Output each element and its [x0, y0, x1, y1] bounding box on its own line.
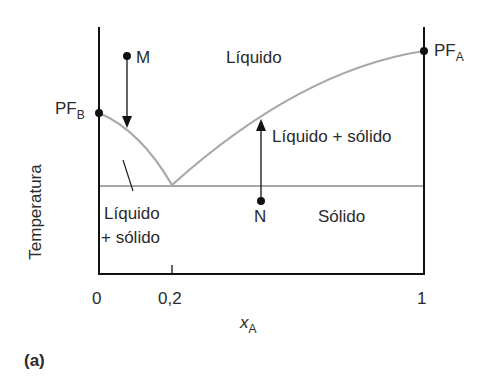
liquidus-right [172, 51, 424, 185]
xtick-0: 0 [92, 289, 101, 308]
figure-label: (a) [24, 351, 45, 370]
region-liquid: Líquido [226, 48, 282, 67]
region-liquid-solid-left-2: + sólido [101, 228, 160, 247]
label-pf-a: PFA [434, 41, 464, 64]
label-n: N [254, 207, 266, 226]
label-pf-b: PFB [55, 99, 85, 122]
xtick-0-2: 0,2 [158, 289, 182, 308]
phase-diagram: M PFB PFA N Líquido Líquido + sólido Líq… [0, 0, 491, 377]
arrow-n-head [256, 119, 266, 131]
region-solid: Sólido [318, 207, 365, 226]
point-pf-b [95, 109, 103, 117]
y-axis-label: Temperatura [26, 164, 45, 260]
xtick-1: 1 [417, 289, 426, 308]
label-m: M [136, 48, 150, 67]
liquidus-left [99, 113, 172, 185]
x-axis-label: xA [239, 313, 257, 336]
region-liquid-solid-left-1: Líquido [104, 204, 160, 223]
region-liquid-solid-right: Líquido + sólido [272, 127, 392, 146]
point-pf-a [420, 47, 428, 55]
